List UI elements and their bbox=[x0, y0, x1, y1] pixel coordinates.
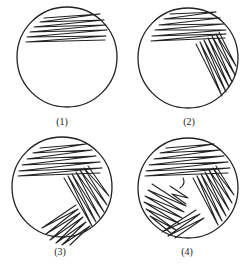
petri-dish-4 bbox=[138, 138, 238, 238]
streak-zone-2 bbox=[196, 32, 236, 96]
panel-label-4: (4) bbox=[172, 246, 202, 257]
petri-dish-3 bbox=[12, 137, 112, 245]
panel-label-1: (1) bbox=[47, 116, 77, 127]
streak-plate-diagram bbox=[0, 0, 242, 267]
streak-zone-3 bbox=[144, 184, 186, 234]
petri-dish-2 bbox=[138, 8, 238, 108]
panel-label-2: (2) bbox=[174, 116, 204, 127]
panel-label-3: (3) bbox=[45, 246, 75, 257]
streak-zone-1 bbox=[26, 14, 107, 42]
streak-zone-2 bbox=[193, 166, 234, 225]
petri-dish-1 bbox=[17, 7, 117, 107]
